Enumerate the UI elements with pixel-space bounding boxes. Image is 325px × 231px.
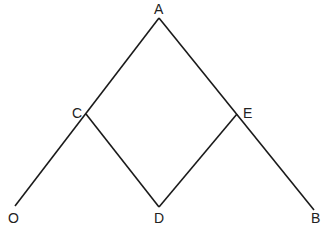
- segment-CD: [86, 114, 159, 207]
- point-label-O: O: [8, 211, 19, 225]
- point-label-D: D: [154, 211, 164, 225]
- segment-DE: [159, 114, 237, 207]
- point-label-B: B: [311, 211, 320, 225]
- point-label-C: C: [72, 106, 82, 120]
- segment-OA: [15, 18, 159, 206]
- point-label-A: A: [154, 2, 163, 16]
- point-label-E: E: [243, 106, 252, 120]
- geometry-diagram: [0, 0, 325, 231]
